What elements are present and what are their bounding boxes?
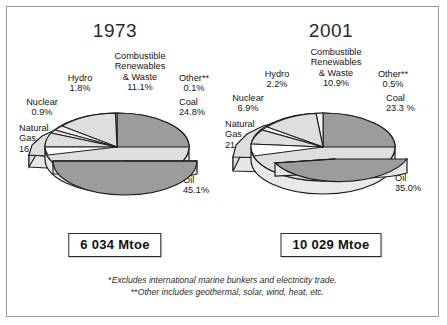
pie-graphic-1973 — [7, 79, 223, 229]
pie-panel-1973: 1973 Combustible Renewables & Waste 11.1… — [7, 7, 223, 277]
footnotes: *Excludes international marine bunkers a… — [7, 275, 438, 298]
pie-graphic-2001 — [223, 79, 439, 229]
footnote-1-text: Excludes international marine bunkers an… — [112, 275, 337, 285]
panel-title-2001: 2001 — [223, 20, 439, 42]
total-box-1973: 6 034 Mtoe — [68, 233, 161, 257]
footnote-2: **Other includes geothermal, solar, wind… — [17, 287, 438, 299]
total-box-2001: 10 029 Mtoe — [280, 233, 381, 257]
footnote-2-marker: ** — [131, 287, 138, 297]
panel-title-1973: 1973 — [7, 20, 223, 42]
footnote-2-text: Other includes geothermal, solar, wind, … — [138, 287, 324, 297]
chart-frame: 1973 Combustible Renewables & Waste 11.1… — [6, 6, 439, 317]
footnote-1: *Excludes international marine bunkers a… — [7, 275, 438, 287]
pie-panel-2001: 2001 Combustible Renewables & Waste 10.9… — [223, 7, 439, 277]
